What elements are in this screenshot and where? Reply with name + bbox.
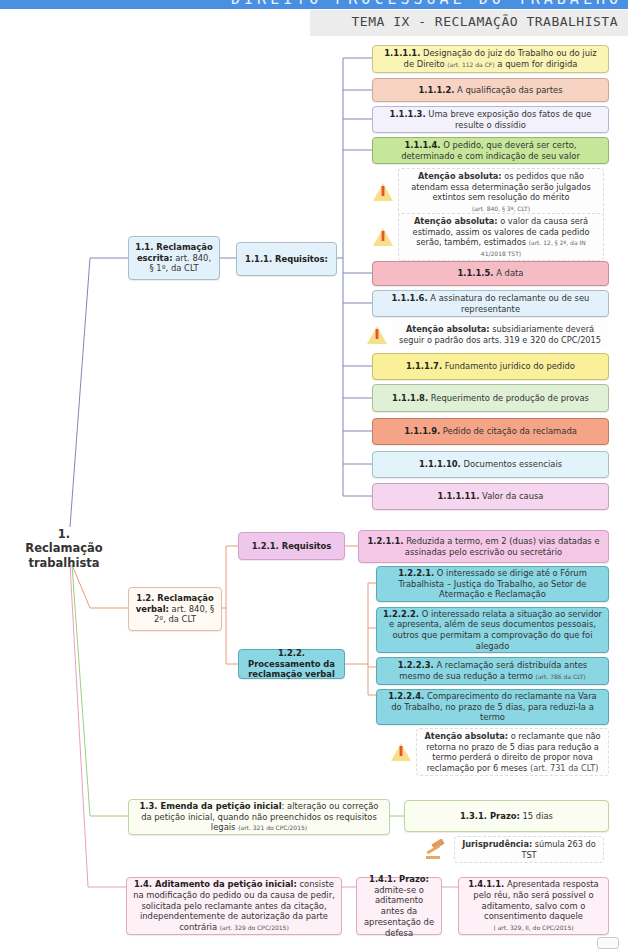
req-text: Requerimento de produção de provas — [428, 393, 589, 403]
node-label: 1.2.1. Requisitos — [252, 541, 332, 552]
warning-title: Atenção absoluta: — [406, 324, 490, 334]
req-item-10[interactable]: 1.1.1.10. Documentos essenciais — [372, 451, 609, 478]
req-item-5[interactable]: 1.1.1.5. A data — [372, 261, 609, 286]
req-item-4[interactable]: 1.1.1.4. O pedido, que deverá ser certo,… — [372, 137, 609, 164]
req-item-1[interactable]: 1.1.1.1. Designação do juiz do Trabalho … — [372, 45, 609, 73]
jurisprudence-note: Jurisprudência: súmula 263 do TST — [424, 836, 609, 863]
node-aditamento-peticao[interactable]: 1.4. Aditamento da petição inicial: cons… — [126, 877, 342, 935]
req-text: Uma breve exposição dos fatos de que res… — [426, 109, 592, 130]
proc-number: 1.2.2.4. — [388, 691, 424, 701]
proc-number: 1.2.2.1. — [398, 568, 434, 578]
proc-number: 1.2.2.3. — [398, 660, 434, 670]
node-ref: ( art. 329, II, do CPC/2015) — [493, 924, 573, 931]
warning-note-3: Atenção absoluta: subsidiariamente dever… — [366, 321, 609, 348]
warning-note-1: Atenção absoluta: os pedidos que não ate… — [372, 168, 609, 216]
proc-text: O interessado relata a situação ao servi… — [389, 609, 602, 651]
jurisprudence-text: súmula 263 do TST — [521, 839, 595, 860]
node-number: 1.2.1.1. — [367, 536, 403, 546]
warning-text-box: Atenção absoluta: o valor da causa será … — [398, 213, 604, 261]
warning-icon — [390, 741, 412, 763]
req-number: 1.1.1.8. — [392, 393, 428, 403]
req-number: 1.1.1.5. — [458, 268, 494, 278]
warning-icon — [372, 226, 394, 248]
node-reclamacao-escrita[interactable]: 1.1. Reclamação escrita: art. 840, § 1º,… — [128, 236, 220, 280]
node-text: Reduzida a termo, em 2 (duas) vias datad… — [403, 536, 599, 557]
req-number: 1.1.1.1. — [384, 48, 420, 58]
req-number: 1.1.1.7. — [406, 361, 442, 371]
node-label: 1.1.1. Requisitos: — [245, 254, 328, 265]
req-item-11[interactable]: 1.1.1.11. Valor da causa — [372, 483, 609, 510]
node-number: 1.4. Aditamento da petição inicial: — [134, 879, 297, 889]
req-ref: (art. 112 da CF) — [447, 61, 494, 68]
warning-title: Atenção absoluta: — [418, 171, 502, 181]
node-requisitos-verbal[interactable]: 1.2.1. Requisitos — [238, 532, 345, 560]
proc-ref: (art. 786 da CLT) — [536, 673, 586, 680]
node-prazo-emenda[interactable]: 1.3.1. Prazo: 15 dias — [404, 800, 609, 832]
req-number: 1.1.1.10. — [419, 459, 461, 469]
warning-text-box: Atenção absoluta: o reclamante que não r… — [416, 728, 609, 776]
req-number: 1.1.1.4. — [405, 140, 441, 150]
req-item-9[interactable]: 1.1.1.9. Pedido de citação da reclamada — [372, 418, 609, 445]
req-item-7[interactable]: 1.1.1.7. Fundamento jurídico do pedido — [372, 353, 609, 380]
req-text: A data — [494, 268, 524, 278]
req-number: 1.1.1.9. — [404, 426, 440, 436]
node-text: 15 dias — [520, 811, 553, 821]
warning-icon — [366, 324, 388, 346]
req-item-6[interactable]: 1.1.1.6. A assinatura do reclamante ou d… — [372, 290, 609, 317]
node-reclamacao-verbal[interactable]: 1.2. Reclamação verbal: art. 840, § 2º, … — [128, 587, 222, 631]
warning-title: Atenção absoluta: — [424, 731, 508, 741]
req-number: 1.1.1.2. — [418, 85, 454, 95]
node-number: 1.4.1. Prazo: — [369, 874, 429, 884]
warning-ref: (art. 731 da CLT) — [530, 763, 598, 773]
req-text: A assinatura do reclamante ou de seu rep… — [428, 293, 590, 314]
req-item-8[interactable]: 1.1.1.8. Requerimento de produção de pro… — [372, 384, 609, 412]
warning-icon — [372, 181, 394, 203]
req-item-3[interactable]: 1.1.1.3. Uma breve exposição dos fatos d… — [372, 106, 609, 133]
warning-note-4: Atenção absoluta: o reclamante que não r… — [390, 728, 609, 776]
node-1-4-1-1[interactable]: 1.4.1.1. Apresentada resposta pelo réu, … — [458, 877, 609, 935]
node-processamento[interactable]: 1.2.2. Processamento da reclamação verba… — [238, 649, 345, 679]
warning-title: Atenção absoluta: — [414, 216, 498, 226]
req-number: 1.1.1.3. — [390, 109, 426, 119]
req-text: Valor da causa — [479, 491, 543, 501]
req-number: 1.1.1.6. — [392, 293, 428, 303]
gavel-icon — [424, 839, 450, 861]
req-item-2[interactable]: 1.1.1.2. A qualificação das partes — [372, 78, 609, 102]
node-number: 1.3. Emenda da petição inicial — [140, 801, 282, 811]
node-text: admite-se o aditamento antes da apresent… — [364, 885, 434, 938]
warning-text-box: Atenção absoluta: os pedidos que não ate… — [398, 168, 604, 216]
warning-ref: (art. 840, § 3º, CLT) — [472, 205, 530, 212]
node-prazo-aditamento[interactable]: 1.4.1. Prazo: admite-se o aditamento ant… — [356, 877, 442, 935]
proc-number: 1.2.2.2. — [383, 609, 419, 619]
req-number: 1.1.1.11. — [438, 491, 480, 501]
node-number: 1.3.1. Prazo: — [460, 811, 520, 821]
node-ref: (art. 321 do CPC/2015) — [238, 824, 307, 831]
req-text: Documentos essenciais — [461, 459, 562, 469]
warning-text-box: Atenção absoluta: subsidiariamente dever… — [392, 321, 608, 348]
proc-item-4[interactable]: 1.2.2.4. Comparecimento do reclamante na… — [376, 689, 609, 725]
jurisprudence-text-box: Jurisprudência: súmula 263 do TST — [454, 836, 604, 863]
node-label: 1.2.2. Processamento da reclamação verba… — [244, 648, 339, 680]
req-text-tail: a quem for dirigida — [495, 59, 578, 69]
page-number-box — [597, 937, 619, 949]
req-text: A qualificação das partes — [454, 85, 562, 95]
proc-item-3[interactable]: 1.2.2.3. A reclamação será distribuída a… — [376, 657, 609, 685]
node-requisitos-escrita[interactable]: 1.1.1. Requisitos: — [236, 242, 337, 276]
proc-item-2[interactable]: 1.2.2.2. O interessado relata a situação… — [376, 607, 609, 653]
node-1-2-1-1[interactable]: 1.2.1.1. Reduzida a termo, em 2 (duas) v… — [358, 530, 609, 563]
root-label: 1. Reclamação trabalhista — [25, 527, 102, 570]
node-number: 1.4.1.1. — [468, 879, 504, 889]
req-text: Pedido de citação da reclamada — [440, 426, 577, 436]
jurisprudence-title: Jurisprudência: — [462, 839, 532, 849]
proc-item-1[interactable]: 1.2.2.1. O interessado se dirige até o F… — [376, 566, 609, 602]
node-ref: (art. 329 do CPC/2015) — [220, 924, 289, 931]
root-node[interactable]: 1. Reclamação trabalhista — [18, 527, 110, 565]
req-text: Fundamento jurídico do pedido — [442, 361, 575, 371]
node-emenda-peticao[interactable]: 1.3. Emenda da petição inicial: alteraçã… — [128, 799, 390, 835]
warning-note-2: Atenção absoluta: o valor da causa será … — [372, 213, 609, 261]
